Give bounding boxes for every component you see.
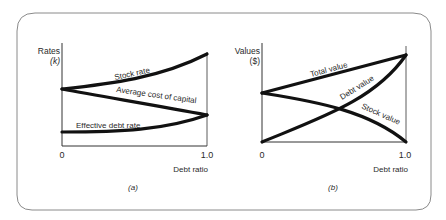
panel-b-y-label-line1: Values bbox=[235, 46, 260, 56]
panel-b-caption: (b) bbox=[328, 183, 338, 192]
panel-a-x-tick-1: 1.0 bbox=[201, 150, 214, 160]
panel-a-x-axis-label: Debt ratio bbox=[173, 165, 208, 174]
panel-b-stock-value-label: Stock value bbox=[360, 102, 402, 127]
panel-a-effective-debt-rate-label: Effective debt rate bbox=[76, 121, 141, 130]
panel-a-y-label-line2: (k) bbox=[50, 56, 60, 66]
panel-a-x-tick-0: 0 bbox=[59, 150, 64, 160]
panel-b: Values ($) 0 1.0 Debt ratio (b) Total va… bbox=[235, 43, 412, 192]
diagram-canvas: Rates (k) 0 1.0 Debt ratio (a) Stock rat… bbox=[0, 0, 446, 220]
panel-a-y-label-line1: Rates bbox=[38, 46, 60, 56]
panel-a-caption: (a) bbox=[128, 183, 138, 192]
panel-b-x-tick-1: 1.0 bbox=[399, 150, 412, 160]
panel-b-y-label-line2: ($) bbox=[250, 56, 261, 66]
panel-a: Rates (k) 0 1.0 Debt ratio (a) Stock rat… bbox=[38, 43, 213, 192]
panel-b-x-axis-label: Debt ratio bbox=[373, 165, 408, 174]
panel-b-x-tick-0: 0 bbox=[259, 150, 264, 160]
panel-b-total-value-curve bbox=[262, 55, 406, 93]
